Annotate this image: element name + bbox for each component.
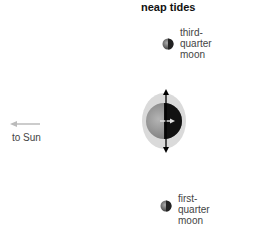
to-sun-arrow-icon <box>10 121 40 127</box>
to-sun-label: to Sun <box>12 132 41 143</box>
neap-tide-figure <box>0 0 274 230</box>
third-quarter-label: third- quarter moon <box>180 27 212 60</box>
first-quarter-label: first- quarter moon <box>178 193 210 226</box>
third-quarter-moon-icon <box>163 39 174 50</box>
first-quarter-moon-icon <box>161 201 172 212</box>
